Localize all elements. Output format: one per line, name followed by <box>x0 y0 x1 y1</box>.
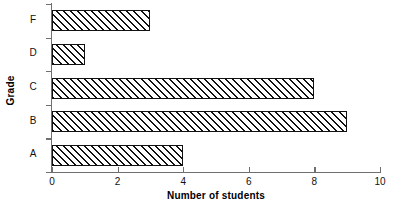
x-tick-mark <box>314 167 315 172</box>
bar-a <box>52 145 183 166</box>
y-tick-label-a: A <box>22 148 44 159</box>
x-axis-title: Number of students <box>52 190 380 201</box>
bar-c <box>52 78 314 99</box>
x-axis-title-text: Number of students <box>167 190 265 201</box>
bar-f <box>52 10 150 31</box>
y-tick-mark <box>46 105 51 106</box>
y-tick-label-b: B <box>22 115 44 126</box>
y-axis-title-text: Grade <box>6 75 17 105</box>
y-tick-mark <box>46 138 51 139</box>
bar-b <box>52 111 347 132</box>
bar-chart: Grade FDCBA 0246810 Number of students <box>0 0 403 210</box>
y-tick-label-f: F <box>22 14 44 25</box>
x-tick-mark <box>118 167 119 172</box>
plot-area <box>52 4 380 172</box>
x-tick-label-8: 8 <box>299 176 329 187</box>
bar-d <box>52 44 85 65</box>
x-tick-label-2: 2 <box>103 176 133 187</box>
y-tick-mark <box>46 172 51 173</box>
x-tick-mark <box>183 167 184 172</box>
x-tick-mark <box>52 167 53 172</box>
x-tick-label-6: 6 <box>234 176 264 187</box>
y-tick-label-d: D <box>22 47 44 58</box>
y-tick-mark <box>46 38 51 39</box>
y-axis-title: Grade <box>2 0 20 180</box>
x-tick-label-4: 4 <box>168 176 198 187</box>
x-tick-label-0: 0 <box>37 176 67 187</box>
y-tick-mark <box>46 71 51 72</box>
x-tick-mark <box>380 167 381 172</box>
x-tick-label-10: 10 <box>365 176 395 187</box>
x-tick-mark <box>249 167 250 172</box>
x-axis-line <box>51 172 381 173</box>
y-tick-mark <box>46 4 51 5</box>
y-tick-label-c: C <box>22 81 44 92</box>
